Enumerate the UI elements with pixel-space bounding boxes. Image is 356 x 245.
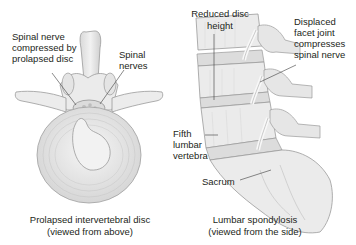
label-spinal-nerves: Spinal nerves	[119, 49, 148, 71]
label-sacrum: Sacrum	[202, 176, 235, 187]
caption-left: Prolapsed intervertebral disc (viewed fr…	[18, 214, 162, 237]
caption-right: Lumbar spondylosis (viewed from the side…	[196, 214, 314, 237]
label-reduced-disc-height: Reduced disc height	[190, 8, 250, 31]
label-compressed-nerve: Spinal nerve compressed by prolapsed dis…	[12, 31, 76, 64]
label-fifth-lumbar-vertebra: Fifth lumbar vertebra	[173, 128, 208, 161]
label-displaced-facet-joint: Displaced facet joint compresses spinal …	[294, 16, 345, 60]
